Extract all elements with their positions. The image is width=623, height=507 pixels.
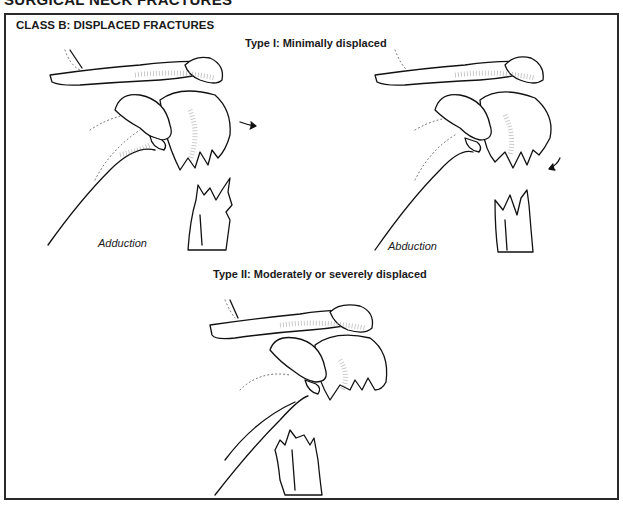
type2-displaced-shoulder-illustration (200, 290, 430, 500)
class-title: CLASS B: DISPLACED FRACTURES (16, 19, 214, 31)
caption-adduction: Adduction (98, 237, 147, 249)
caption-abduction: Abduction (388, 240, 437, 252)
type2-title: Type II: Moderately or severely displace… (213, 268, 427, 280)
page-header: SURGICAL NECK FRACTURES (4, 0, 232, 8)
abduction-shoulder-illustration (345, 40, 585, 255)
adduction-shoulder-illustration (40, 40, 280, 250)
